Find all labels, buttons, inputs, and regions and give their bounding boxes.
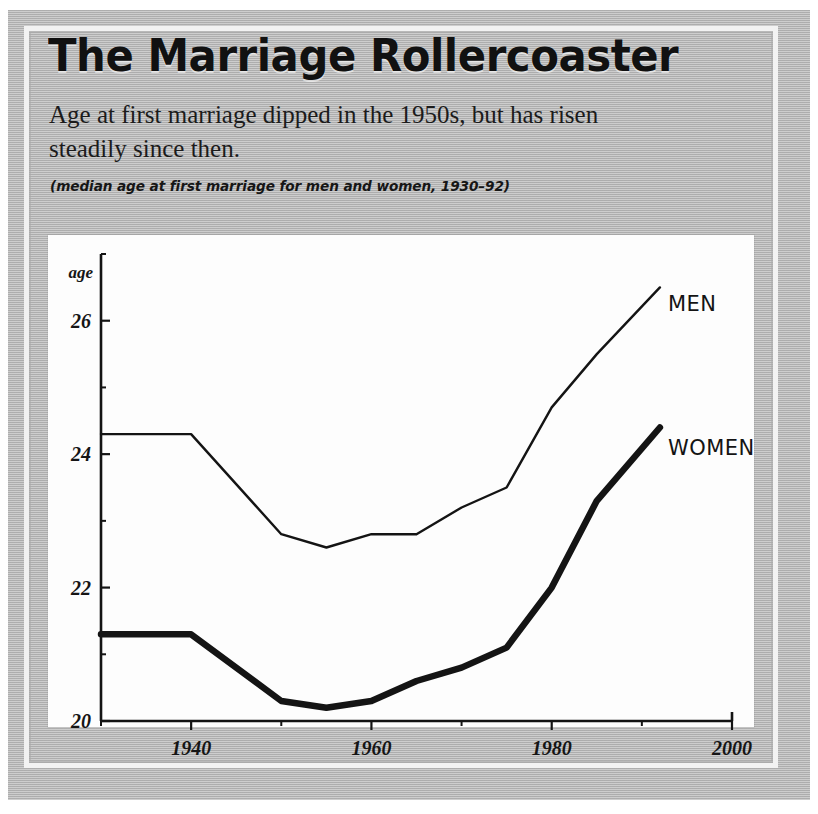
chart-plot-area: [48, 235, 754, 727]
chart-caption: (median age at first marriage for men an…: [50, 178, 614, 194]
page-title: The Marriage Rollercoaster: [48, 30, 699, 82]
chart-subtitle: Age at first marriage dipped in the 1950…: [49, 98, 609, 166]
figure-page: The Marriage Rollercoaster Age at first …: [0, 0, 818, 814]
